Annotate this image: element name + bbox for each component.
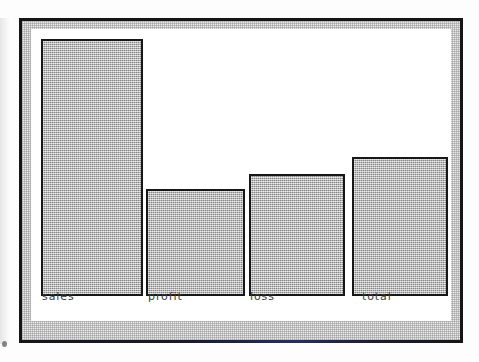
- plot-area: salesprofitlosstotal: [31, 29, 451, 321]
- bar-label-sales: sales: [42, 290, 75, 303]
- chart-frame-border: salesprofitlosstotal: [19, 18, 463, 343]
- scan-artifact-bottom-rule: [19, 340, 463, 343]
- bar-label-total: total: [362, 290, 392, 303]
- bar-loss: [249, 174, 345, 296]
- bar-total: [352, 157, 448, 296]
- bar-label-profit: profit: [148, 290, 183, 303]
- bar-profit: [146, 189, 245, 296]
- scanned-page: salesprofitlosstotal: [0, 0, 479, 362]
- scan-artifact-left-smudge: [0, 18, 10, 344]
- scan-artifact-dot: [2, 341, 7, 347]
- bar-label-loss: loss: [250, 290, 275, 303]
- bar-sales: [41, 39, 143, 296]
